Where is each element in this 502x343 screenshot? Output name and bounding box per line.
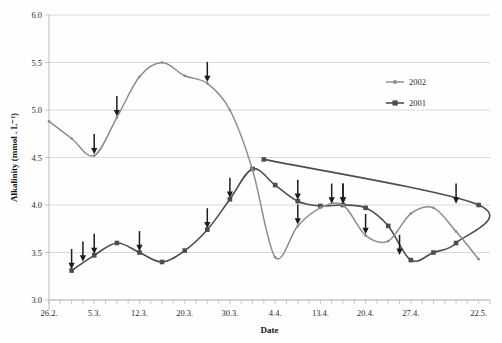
- data-point-marker: [386, 224, 391, 229]
- x-tick-label: 4.4.: [269, 308, 282, 318]
- chart-canvas: 3.03.54.04.55.05.56.0 26.2.5.3.12.3.20.3…: [0, 0, 502, 343]
- data-point-marker: [182, 248, 187, 253]
- y-tick-label: 3.0: [31, 295, 42, 305]
- y-tick-label: 5.0: [31, 105, 42, 115]
- alkalinity-line-chart: 3.03.54.04.55.05.56.0 26.2.5.3.12.3.20.3…: [0, 0, 502, 343]
- annotation-arrow-head: [204, 76, 210, 82]
- data-point-marker: [409, 258, 414, 263]
- data-point-marker: [477, 258, 480, 261]
- x-tick-label: 20.3.: [176, 308, 193, 318]
- series-2001-line: [69, 157, 489, 273]
- x-tick-label: 22.5.: [470, 308, 487, 318]
- data-point-marker: [70, 137, 73, 140]
- data-point-marker: [387, 240, 390, 243]
- data-point-marker: [431, 250, 436, 255]
- x-tick-label: 13.4.: [312, 308, 329, 318]
- data-point-marker: [432, 206, 435, 209]
- data-point-marker: [93, 154, 96, 157]
- y-axis: 3.03.54.04.55.05.56.0: [31, 10, 49, 310]
- x-tick-label: 26.2.: [41, 308, 58, 318]
- data-point-marker: [454, 241, 459, 246]
- annotation-arrow-head: [453, 197, 459, 203]
- annotation-arrows: [69, 62, 460, 269]
- data-point-marker: [229, 109, 232, 112]
- data-point-marker: [262, 157, 267, 162]
- legend-marker-2002: [393, 80, 397, 84]
- x-tick-label: 20.4.: [357, 308, 374, 318]
- y-axis-title: Alkalinity (mmol . L⁻¹): [9, 113, 19, 202]
- data-point-marker: [115, 116, 118, 119]
- x-axis: 26.2.5.3.12.3.20.3.30.3.4.4.13.4.20.4.27…: [41, 300, 491, 318]
- data-point-marker: [48, 120, 51, 123]
- y-tick-label: 6.0: [31, 10, 42, 20]
- data-point-marker: [364, 234, 367, 237]
- y-tick-label: 3.5: [31, 248, 42, 258]
- legend-label-2002: 2002: [409, 77, 426, 87]
- data-point-marker: [273, 183, 278, 188]
- data-point-marker: [161, 61, 164, 64]
- data-point-marker: [274, 256, 277, 259]
- y-tick-label: 5.5: [31, 58, 42, 68]
- x-tick-label: 30.3.: [221, 308, 238, 318]
- legend-label-2001: 2001: [409, 98, 426, 108]
- data-point-marker: [409, 212, 412, 215]
- data-point-marker: [251, 168, 254, 171]
- data-point-marker: [319, 206, 322, 209]
- legend-marker-2001: [393, 100, 398, 105]
- series-path-2001: [72, 159, 490, 270]
- x-tick-label: 12.3.: [131, 308, 148, 318]
- data-point-marker: [183, 74, 186, 77]
- y-tick-label: 4.5: [31, 153, 42, 163]
- data-point-marker: [342, 204, 345, 207]
- x-tick-label: 5.3.: [88, 308, 101, 318]
- data-point-marker: [138, 75, 141, 78]
- data-point-marker: [363, 206, 368, 211]
- data-point-marker: [206, 82, 209, 85]
- x-tick-label: 27.4.: [402, 308, 419, 318]
- data-point-marker: [115, 241, 120, 246]
- data-point-marker: [296, 225, 299, 228]
- data-point-marker: [455, 230, 458, 233]
- data-point-marker: [476, 203, 481, 208]
- legend: 20022001: [386, 77, 426, 108]
- annotation-arrow-head: [396, 249, 402, 255]
- y-tick-label: 4.0: [31, 200, 42, 210]
- data-point-marker: [160, 260, 165, 265]
- x-axis-title: Date: [261, 325, 279, 335]
